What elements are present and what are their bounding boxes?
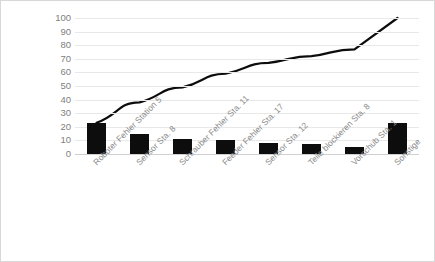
gridline xyxy=(75,86,419,87)
y-axis-tick-label: 10 xyxy=(43,135,71,145)
y-axis: 0102030405060708090100 xyxy=(41,1,71,262)
gridline xyxy=(75,72,419,73)
y-axis-tick-label: 60 xyxy=(43,67,71,77)
gridline xyxy=(75,113,419,114)
y-axis-tick-label: 90 xyxy=(43,27,71,37)
y-axis-tick-label: 30 xyxy=(43,108,71,118)
y-axis-tick-label: 50 xyxy=(43,81,71,91)
y-axis-tick-label: 20 xyxy=(43,122,71,132)
y-axis-tick-label: 80 xyxy=(43,40,71,50)
x-axis-labels: Roboter Fehler Station 5Sensor Sta. 8Sch… xyxy=(75,158,419,262)
y-axis-tick-label: 100 xyxy=(43,13,71,23)
y-axis-tick-label: 0 xyxy=(43,149,71,159)
gridline xyxy=(75,32,419,33)
y-axis-tick-label: 40 xyxy=(43,95,71,105)
y-axis-tick-label: 70 xyxy=(43,54,71,64)
pareto-chart: 0102030405060708090100 Roboter Fehler St… xyxy=(0,0,435,262)
gridline xyxy=(75,59,419,60)
gridline xyxy=(75,45,419,46)
gridline xyxy=(75,18,419,19)
